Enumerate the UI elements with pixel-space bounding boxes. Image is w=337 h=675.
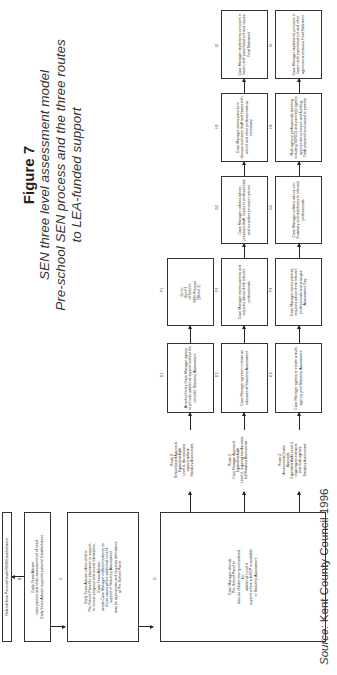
arrow-d-to-route1 bbox=[190, 492, 191, 512]
arrow-g3-to-h3 bbox=[299, 162, 300, 176]
figure-subtitle-1: SEN three level assessment model bbox=[37, 5, 53, 345]
arrow-h3-to-i3 bbox=[299, 79, 300, 93]
label-f1: F1 bbox=[160, 288, 164, 292]
figure-title-block: Figure 7 SEN three level assessment mode… bbox=[20, 5, 85, 345]
arrow-f2-to-g2 bbox=[244, 244, 245, 258]
label-g2: G2 bbox=[215, 205, 219, 210]
route-3-text: Route 3 Assessment Centre Approach Equiv… bbox=[278, 430, 307, 490]
label-e2: E2 bbox=[215, 373, 219, 377]
source-text: Kent County Council 1996 bbox=[318, 489, 330, 626]
arrow-c-to-d bbox=[139, 626, 153, 627]
label-e3: E3 bbox=[269, 373, 273, 377]
label-h2: H2 bbox=[215, 124, 219, 129]
box-d-case-manager-panel: Case Manager attends Pre-School Panel to… bbox=[160, 512, 326, 642]
flowchart-page: Figure 7 SEN three level assessment mode… bbox=[0, 0, 337, 675]
box-b-early-years-adviser: Early Years Adviser visits parents and c… bbox=[24, 512, 51, 642]
label-e1: E1 bbox=[160, 373, 164, 377]
label-g3: G3 bbox=[269, 205, 273, 210]
arrow-f3-to-g3 bbox=[299, 244, 300, 258]
route-2-text: Route 2 Case Manager Approach Equivalent… bbox=[228, 430, 248, 490]
box-i3: Case Manager implements provision in lia… bbox=[275, 10, 322, 79]
label-i3: I3 bbox=[269, 44, 273, 47]
label-d: D bbox=[153, 577, 157, 580]
arrow-h2-to-i2 bbox=[244, 79, 245, 93]
box-f1: Go to Box F1 of School SEN Process (Shee… bbox=[167, 258, 214, 326]
arrow-g2-to-h2 bbox=[244, 162, 245, 176]
figure-subtitle-3: to LEA-funded support bbox=[69, 5, 85, 345]
box-e2: Case Manager agrees to initiate an educa… bbox=[221, 343, 268, 413]
label-i2: I2 bbox=[215, 44, 219, 47]
arrow-b-to-c bbox=[51, 626, 65, 627]
box-h2: Case Manager meets parents to discuss an… bbox=[221, 93, 268, 162]
box-c-pre-school-panel-referral: Early Years Adviser refers child to Pre-… bbox=[67, 512, 139, 642]
arrow-route2-to-e2 bbox=[244, 413, 245, 430]
arrow-d-to-route2 bbox=[244, 492, 245, 512]
arrow-d-to-route3 bbox=[299, 492, 300, 512]
label-f3: F3 bbox=[269, 288, 273, 292]
box-h3: Multi-agency professionals meeting inclu… bbox=[275, 93, 322, 162]
figure-subtitle-2: Pre-school SEN process and the three rou… bbox=[53, 5, 69, 345]
source-label: Source: bbox=[318, 625, 330, 665]
arrow-e1-to-f1 bbox=[190, 326, 191, 343]
box-f2: Case Manager meets parents and requests … bbox=[221, 258, 268, 326]
label-c: C bbox=[59, 577, 63, 580]
label-b: B bbox=[18, 578, 22, 580]
arrow-e3-to-f3 bbox=[299, 326, 300, 343]
box-i2: Case Manager implements provision in lia… bbox=[221, 10, 268, 79]
arrow-route3-to-e3 bbox=[299, 413, 300, 430]
box-e1: At school entry Case Manager agrees to p… bbox=[167, 343, 214, 413]
figure-number: Figure 7 bbox=[20, 5, 37, 345]
arrow-route1-to-e1 bbox=[190, 413, 191, 430]
box-g2: Case Manager collates advice, prepares d… bbox=[221, 176, 268, 244]
box-e3: Case Manager agrees to initiate a multi-… bbox=[275, 343, 322, 413]
box-f3: Case Manager meets parents, requests adv… bbox=[275, 258, 322, 326]
label-h3: H3 bbox=[269, 124, 273, 129]
source-citation: Source: Kent County Council 1996 bbox=[318, 489, 330, 665]
label-f2: F2 bbox=[215, 288, 219, 292]
route-1-text: Route 1 School based Approach Equivalent… bbox=[170, 430, 195, 490]
box-g3: Case Manager collates advice into Summar… bbox=[275, 176, 322, 244]
arrow-e2-to-f2 bbox=[244, 326, 245, 343]
